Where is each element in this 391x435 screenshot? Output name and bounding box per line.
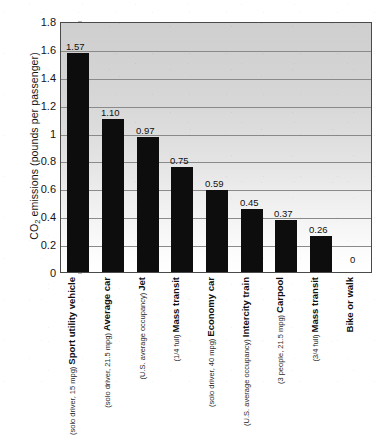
bar-slot[interactable]: 0.45	[241, 23, 263, 272]
bar[interactable]	[137, 137, 159, 272]
y-axis-tick-label: 0.6	[22, 183, 56, 195]
y-axis-tick-label: 1.2	[22, 100, 56, 112]
bar-value-label: 0.59	[205, 179, 224, 189]
bar-slot[interactable]: 0.59	[206, 23, 228, 272]
plot-area: 1.571.100.970.750.590.450.370.260	[60, 22, 372, 273]
category-sublabel: (U.S. average occupancy)	[136, 293, 148, 380]
bar-slot[interactable]: 0.26	[310, 23, 332, 272]
x-axis-category-label: (solo driver, 21.5 mpg)Average car	[101, 277, 123, 389]
category-sublabel: (3 people, 21.5 mpg)	[274, 315, 286, 384]
y-axis-tick-label: 0.8	[22, 155, 56, 167]
x-axis-category-label: (3 people, 21.5 mpg)Carpool	[274, 277, 296, 389]
bar-slot[interactable]: 0.75	[171, 23, 193, 272]
bar-value-label: 0.45	[240, 198, 259, 208]
category-sublabel: (1/4 full)	[170, 334, 182, 361]
category-sublabel: (U.S. average occupancy)	[240, 339, 252, 426]
y-axis-tick-label: 1	[22, 128, 56, 140]
y-axis-tick-label: 0.4	[22, 211, 56, 223]
y-axis-tick-label: 1.6	[22, 44, 56, 56]
x-axis-category-label: (solo driver, 40 mpg)Economy car	[205, 277, 227, 389]
bar-value-label: 0.26	[309, 225, 328, 235]
category-name: Carpool	[274, 277, 285, 313]
category-name: Mass transit	[309, 277, 320, 332]
x-axis-category-label: Bike or walk	[344, 277, 366, 389]
bar[interactable]	[102, 119, 124, 272]
bar-value-label: 0.97	[136, 126, 155, 136]
x-axis-category-label: (solo driver, 15 mpg)Sport utility vehic…	[66, 277, 88, 389]
category-name: Economy car	[205, 277, 216, 337]
category-name: Jet	[136, 277, 147, 291]
bar[interactable]	[171, 167, 193, 272]
bar-slot[interactable]: 1.57	[67, 23, 89, 272]
bar-slot[interactable]: 0.97	[137, 23, 159, 272]
y-axis-tick-label: 1.8	[22, 16, 56, 28]
bar-slot[interactable]: 0	[345, 23, 367, 272]
category-name: Mass transit	[170, 277, 181, 332]
bar[interactable]	[241, 209, 263, 272]
x-axis-category-label: (U.S. average occupancy)Intercity train	[240, 277, 262, 389]
category-name: Intercity train	[240, 277, 251, 337]
category-sublabel: (solo driver, 40 mpg)	[205, 339, 217, 407]
category-name: Average car	[101, 277, 112, 331]
category-name: Bike or walk	[344, 277, 355, 332]
x-axis-category-labels: (solo driver, 15 mpg)Sport utility vehic…	[60, 277, 372, 392]
y-axis-tick-label: 0	[22, 267, 56, 279]
bar-value-label: 0.37	[274, 209, 293, 219]
x-axis-category-label: (1/4 full)Mass transit	[170, 277, 192, 389]
bars-layer: 1.571.100.970.750.590.450.370.260	[61, 23, 371, 272]
x-axis-category-label: (3/4 full)Mass transit	[309, 277, 331, 389]
category-sublabel: (solo driver, 15 mpg)	[66, 367, 78, 435]
bar[interactable]	[310, 236, 332, 272]
category-sublabel: (solo driver, 21.5 mpg)	[101, 333, 113, 408]
bar[interactable]	[275, 220, 297, 272]
bar-value-label: 0	[350, 255, 355, 265]
category-sublabel: (3/4 full)	[309, 334, 321, 361]
bar[interactable]	[206, 190, 228, 272]
bar-value-label: 1.57	[66, 42, 85, 52]
y-axis-tick-label: 1.4	[22, 72, 56, 84]
y-axis-tick-label: 0.2	[22, 239, 56, 251]
bar-value-label: 1.10	[101, 108, 120, 118]
bar-value-label: 0.75	[170, 156, 189, 166]
x-axis-category-label: (U.S. average occupancy)Jet	[136, 277, 158, 389]
bar-slot[interactable]: 0.37	[275, 23, 297, 272]
bar[interactable]	[67, 53, 89, 272]
bar-slot[interactable]: 1.10	[102, 23, 124, 272]
category-name: Sport utility vehicle	[66, 277, 77, 365]
y-axis-tick-labels: 1.81.61.41.210.80.60.40.20	[22, 22, 56, 273]
